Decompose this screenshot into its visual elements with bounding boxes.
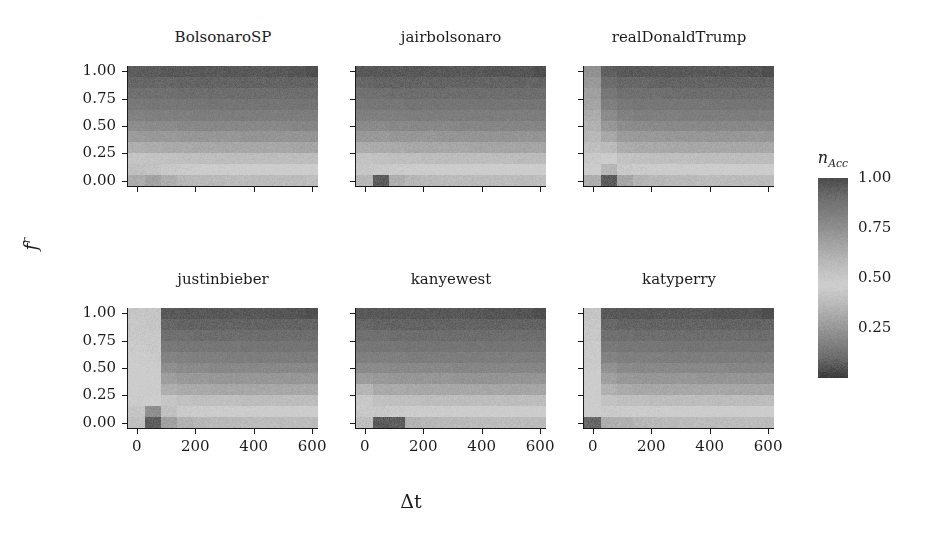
colorbar-tick-label: 0.25 [858,320,891,335]
y-axis-label-sup: r [19,238,33,244]
y-axis-label-base: f [19,243,41,250]
x-tick-mark [651,429,652,434]
y-tick-mark [578,423,583,424]
colorbar-gradient [818,178,848,378]
y-tick-mark [578,368,583,369]
x-axis-spine [583,428,774,429]
x-tick-mark [710,429,711,434]
x-tick-label: 200 [621,439,681,454]
y-axis-label: fr [19,214,41,274]
x-tick-mark [768,429,769,434]
heatmap-katyperry [584,308,774,428]
panel-katyperry: katyperry0200400600 [0,0,943,534]
y-tick-mark [578,395,583,396]
colorbar-title-base: n [818,148,828,167]
x-axis-label: Δt [361,490,461,512]
y-tick-mark [578,341,583,342]
x-tick-label: 0 [563,439,623,454]
figure-canvas: BolsonaroSP0.000.250.500.751.00jairbolso… [0,0,943,534]
x-tick-label: 600 [738,439,798,454]
x-tick-label: 400 [680,439,740,454]
colorbar-tick-label: 0.50 [858,270,891,285]
y-tick-mark [578,313,583,314]
colorbar-title: nAcc [788,148,878,170]
colorbar-title-sub: Acc [828,157,848,170]
colorbar [818,178,848,378]
colorbar-tick-label: 0.75 [858,220,891,235]
x-tick-mark [593,429,594,434]
colorbar-tick-label: 1.00 [858,170,891,185]
panel-title: katyperry [584,272,774,287]
heatmap-canvas [584,308,774,428]
y-axis-spine [583,308,584,428]
